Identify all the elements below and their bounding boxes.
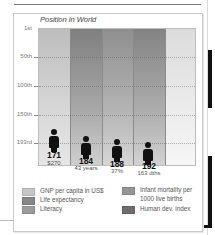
value-infant-mortality: 163 dths	[133, 170, 165, 176]
gridline	[39, 86, 195, 87]
legend-item-life-expectancy: Life expectancy	[22, 196, 84, 205]
left-rule	[0, 220, 14, 221]
margin-bar-hook	[202, 225, 212, 228]
legend-item-literacy: Literacy	[22, 205, 62, 214]
value-gnp: $270	[38, 160, 70, 166]
ytick-193rd: 193rd	[10, 139, 32, 145]
legend-swatch-gnp	[22, 188, 35, 196]
legend-label-hdi: Human dev. index	[140, 205, 190, 214]
legend-label-literacy: Literacy	[40, 205, 62, 214]
legend-swatch-literacy	[22, 206, 35, 214]
legend-label-gnp: GNP per capita in US$	[40, 187, 104, 196]
ytick-100th: 100th	[10, 82, 32, 88]
ytick-150th: 150th	[10, 111, 32, 117]
legend-item-infant-mortality: Infant mortality per 1000 live births	[122, 186, 192, 203]
legend-swatch-life-expectancy	[22, 197, 35, 205]
person-icon	[49, 129, 59, 152]
legend-label-life-expectancy: Life expectancy	[40, 196, 84, 205]
margin-bar-top	[208, 50, 212, 108]
legend-swatch-infant-mortality	[122, 187, 135, 195]
rank-gnp: 171	[38, 150, 70, 160]
header-rule	[14, 4, 201, 5]
legend-item-hdi: Human dev. index	[122, 205, 190, 214]
column-hdi	[166, 29, 196, 165]
chart-title: Position in World	[40, 15, 96, 24]
ytick-50th: 50th	[10, 53, 32, 59]
margin-bar-bottom	[208, 156, 212, 228]
value-literacy: 37%	[101, 168, 133, 174]
legend-label-infant-mortality: Infant mortality per 1000 live births	[140, 186, 192, 203]
ytick-1st: 1st	[10, 25, 32, 31]
value-life-expectancy: 43 years	[70, 165, 102, 171]
legend-swatch-hdi	[122, 206, 135, 214]
legend-item-gnp: GNP per capita in US$	[22, 187, 104, 196]
gridline	[39, 115, 195, 116]
gridline	[39, 57, 195, 58]
